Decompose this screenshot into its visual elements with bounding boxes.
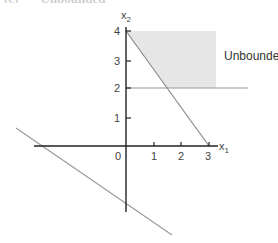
x-tick-label-3: 3 xyxy=(205,150,211,162)
lp-graph: 0 1 2 3 1 2 3 4 x1 x2 Unbounded xyxy=(0,0,278,243)
x-axis-label: x1 xyxy=(219,140,230,155)
y-tick-label-1: 1 xyxy=(114,112,120,124)
y-tick-label-3: 3 xyxy=(114,55,120,67)
x-tick-label-1: 1 xyxy=(151,150,157,162)
x-tick-label-2: 2 xyxy=(178,150,184,162)
y-axis-label: x2 xyxy=(121,9,132,24)
unbounded-region-label: Unbounded xyxy=(224,49,278,63)
y-tick-label-4: 4 xyxy=(114,25,120,37)
origin-label: 0 xyxy=(115,150,121,162)
y-tick-label-2: 2 xyxy=(114,82,120,94)
feasible-region xyxy=(126,31,216,88)
objective-line xyxy=(16,128,172,235)
